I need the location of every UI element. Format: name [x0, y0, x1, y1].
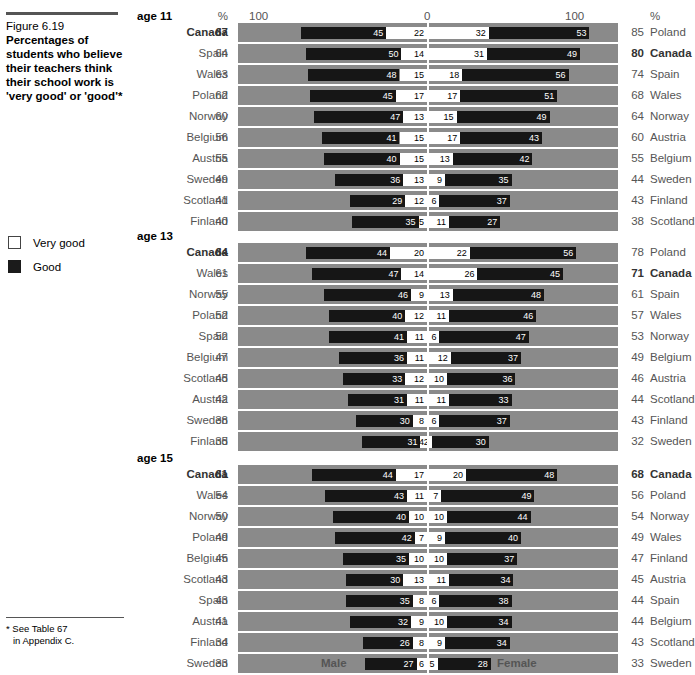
total-value-right: 44 — [622, 594, 644, 606]
bar-value-male-very-good: 11 — [405, 352, 424, 364]
total-value-left: 56 — [206, 131, 228, 143]
chart-row: Scotland4143Finland2912637 — [0, 191, 694, 212]
country-label-right: Norway — [650, 110, 689, 122]
country-label-right: Wales — [650, 309, 682, 321]
bar-value-female-very-good: 13 — [431, 289, 450, 301]
country-label-right: Canada — [650, 267, 692, 279]
total-value-right: 68 — [622, 89, 644, 101]
total-value-left: 34 — [206, 636, 228, 648]
bar-value-female-very-good: 26 — [455, 268, 474, 280]
bar-value-female-good: 34 — [490, 616, 509, 628]
bar-value-female-good: 35 — [490, 174, 509, 186]
total-value-right: 68 — [622, 468, 644, 480]
country-label-right: Norway — [650, 510, 689, 522]
bar-value-male-very-good: 15 — [405, 153, 424, 165]
bar-value-male-very-good: 9 — [405, 616, 424, 628]
bar-value-male-very-good: 14 — [405, 48, 424, 60]
chart-row: Belgium5660Austria41151743 — [0, 128, 694, 149]
axis-tick-right-100: 100 — [565, 10, 584, 22]
total-value-left: 61 — [206, 267, 228, 279]
axis-label-female: Female — [497, 657, 537, 669]
country-label-right: Sweden — [650, 657, 692, 669]
total-value-right: 56 — [622, 489, 644, 501]
bar-value-female-good: 28 — [469, 658, 488, 670]
bar-value-male-good: 45 — [364, 27, 383, 39]
bar-value-female-very-good: 9 — [423, 637, 442, 649]
bar-value-male-good: 48 — [378, 69, 397, 81]
chart-row: Sweden4944Sweden3613935 — [0, 170, 694, 191]
bar-value-female-very-good: 17 — [438, 132, 457, 144]
bar-value-male-good: 41 — [378, 132, 397, 144]
total-value-left: 33 — [206, 657, 228, 669]
country-label-right: Belgium — [650, 351, 692, 363]
total-value-right: 43 — [622, 414, 644, 426]
country-label-right: Austria — [650, 573, 686, 585]
bar-value-male-good: 33 — [383, 373, 402, 385]
country-label-right: Belgium — [650, 152, 692, 164]
bar-value-female-good: 34 — [492, 574, 511, 586]
country-label-right: Scotland — [650, 215, 695, 227]
age-group-header: age 15 — [137, 452, 173, 464]
chart-row: Wales6374Spain48151856 — [0, 65, 694, 86]
total-value-right: 33 — [622, 657, 644, 669]
country-label-right: Finland — [650, 414, 688, 426]
total-value-left: 52 — [206, 309, 228, 321]
bar-value-male-very-good: 17 — [405, 90, 424, 102]
bar-value-male-good: 40 — [387, 511, 406, 523]
country-label-right: Belgium — [650, 615, 692, 627]
bar-value-male-good: 47 — [381, 111, 400, 123]
bar-value-female-good: 53 — [568, 27, 587, 39]
country-label-right: Austria — [650, 131, 686, 143]
bar-value-male-very-good: 14 — [405, 268, 424, 280]
age-group-header: age 13 — [137, 230, 173, 242]
total-value-right: 43 — [622, 194, 644, 206]
bar-value-female-good: 37 — [495, 553, 514, 565]
chart-row: Poland5257Wales40121146 — [0, 306, 694, 327]
bar-value-male-very-good: 15 — [405, 69, 424, 81]
bar-value-female-good: 42 — [511, 153, 530, 165]
country-label-right: Wales — [650, 89, 682, 101]
age-group-rows: Canada6785Poland45223253Spain6480Canada5… — [0, 23, 694, 233]
bar-value-male-very-good: 8 — [405, 637, 424, 649]
bar-value-male-good: 44 — [374, 469, 393, 481]
total-value-left: 62 — [206, 89, 228, 101]
bar-value-female-good: 51 — [535, 90, 554, 102]
total-value-left: 42 — [206, 393, 228, 405]
bar-value-female-good: 44 — [509, 511, 528, 523]
country-label-right: Scotland — [650, 393, 695, 405]
bar-value-female-good: 40 — [499, 532, 518, 544]
bar-value-male-good: 45 — [374, 90, 393, 102]
bar-value-female-very-good: 32 — [467, 27, 486, 39]
bar-value-male-good: 31 — [385, 394, 404, 406]
zero-axis-line — [427, 465, 429, 673]
chart-row: Austria5555Belgium40151342 — [0, 149, 694, 170]
bar-value-female-very-good: 17 — [438, 90, 457, 102]
total-value-right: 43 — [622, 636, 644, 648]
bar-value-female-good: 49 — [512, 490, 531, 502]
chart-row: Wales5456Poland4311749 — [0, 486, 694, 507]
total-value-left: 64 — [206, 246, 228, 258]
total-value-left: 41 — [206, 194, 228, 206]
country-label-right: Spain — [650, 68, 679, 80]
bar-value-female-good: 45 — [541, 268, 560, 280]
total-value-right: 64 — [622, 110, 644, 122]
bar-value-male-very-good: 17 — [405, 469, 424, 481]
bar-value-male-good: 40 — [383, 310, 402, 322]
country-label-right: Finland — [650, 194, 688, 206]
total-value-right: 46 — [622, 372, 644, 384]
bar-value-male-good: 30 — [381, 574, 400, 586]
bar-value-female-very-good: 2 — [410, 436, 429, 448]
bar-value-male-very-good: 13 — [405, 111, 424, 123]
chart-row: Canada6785Poland45223253 — [0, 23, 694, 44]
bar-value-female-good: 43 — [520, 132, 539, 144]
total-value-left: 45 — [206, 552, 228, 564]
bar-value-female-very-good: 5 — [416, 658, 435, 670]
bar-value-female-good: 34 — [488, 637, 507, 649]
bar-value-female-very-good: 11 — [427, 216, 446, 228]
bar-value-male-very-good: 9 — [405, 289, 424, 301]
bar-value-male-very-good: 7 — [405, 532, 424, 544]
bar-value-male-good: 47 — [379, 268, 398, 280]
bar-value-male-good: 50 — [379, 48, 398, 60]
total-value-left: 55 — [206, 152, 228, 164]
